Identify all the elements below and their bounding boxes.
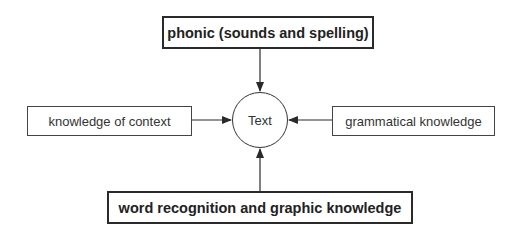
word-recognition-box: word recognition and graphic knowledge: [107, 191, 413, 224]
phonic-box: phonic (sounds and spelling): [162, 16, 374, 49]
grammatical-knowledge-label: grammatical knowledge: [345, 114, 482, 129]
grammatical-knowledge-box: grammatical knowledge: [332, 106, 495, 136]
text-center-label: Text: [248, 113, 272, 128]
context-knowledge-label: knowledge of context: [48, 114, 170, 129]
context-knowledge-box: knowledge of context: [27, 106, 192, 136]
phonic-label: phonic (sounds and spelling): [167, 25, 368, 41]
word-recognition-label: word recognition and graphic knowledge: [119, 200, 402, 216]
text-center-node: Text: [232, 92, 288, 148]
